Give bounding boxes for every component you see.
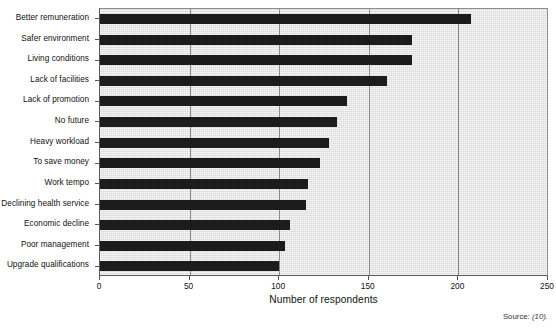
x-axis-tick-label: 100 (271, 281, 285, 291)
bar (100, 14, 471, 24)
category-tick (95, 163, 99, 164)
category-label: To save money (33, 152, 89, 173)
bar (100, 241, 285, 251)
category-tick (95, 39, 99, 40)
bar-row (100, 91, 547, 112)
bar-row (100, 174, 547, 195)
category-tick (95, 18, 99, 19)
bar (100, 138, 329, 148)
x-axis-tick-label: 0 (97, 281, 102, 291)
bar-row (100, 153, 547, 174)
bar-row (100, 9, 547, 30)
source-reference: (10). (532, 312, 548, 321)
plot-area (99, 8, 548, 276)
category-tick (95, 266, 99, 267)
bar (100, 220, 290, 230)
category-label: Safer environment (21, 29, 89, 50)
x-axis-tick-label: 50 (184, 281, 193, 291)
bar (100, 261, 279, 271)
category-tick (95, 142, 99, 143)
bar (100, 96, 347, 106)
x-axis-title: Number of respondents (99, 294, 548, 305)
x-axis-tick-label: 200 (450, 281, 464, 291)
bar (100, 117, 337, 127)
category-tick (95, 245, 99, 246)
category-label: No future (55, 111, 89, 132)
category-label: Better remuneration (16, 8, 89, 29)
bar (100, 179, 308, 189)
x-axis-tick (99, 276, 100, 280)
bar-row (100, 256, 547, 276)
x-axis-tick (189, 276, 190, 280)
category-tick (95, 224, 99, 225)
category-label: Poor management (21, 235, 89, 256)
category-label: Upgrade qualifications (7, 255, 89, 276)
category-tick (95, 183, 99, 184)
category-tick (95, 80, 99, 81)
category-tick (95, 101, 99, 102)
x-axis-tick-label: 150 (361, 281, 375, 291)
source-note: Source: (10). (503, 312, 548, 321)
bar-chart-figure: Better remunerationSafer environmentLivi… (0, 0, 556, 331)
bar-row (100, 133, 547, 154)
category-axis-labels: Better remunerationSafer environmentLivi… (0, 8, 95, 276)
category-label: Declining health service (1, 194, 89, 215)
bar (100, 35, 412, 45)
bar-row (100, 30, 547, 51)
category-label: Heavy workload (30, 132, 89, 153)
bar (100, 200, 306, 210)
bar (100, 158, 320, 168)
category-label: Lack of promotion (23, 90, 89, 111)
source-label: Source: (503, 312, 530, 321)
bar (100, 76, 387, 86)
category-tick (95, 204, 99, 205)
x-axis-tick-label: 250 (540, 281, 554, 291)
category-tick (95, 121, 99, 122)
bar-row (100, 112, 547, 133)
bar-row (100, 50, 547, 71)
bar-row (100, 71, 547, 92)
x-axis-tick (278, 276, 279, 280)
category-label: Lack of facilities (30, 70, 89, 91)
x-axis-tick (457, 276, 458, 280)
category-tick (95, 60, 99, 61)
x-axis-tick (368, 276, 369, 280)
bar (100, 55, 412, 65)
category-label: Economic decline (24, 214, 89, 235)
x-axis-tick (547, 276, 548, 280)
bar-row (100, 195, 547, 216)
bar-row (100, 215, 547, 236)
category-label: Living conditions (28, 49, 89, 70)
bar-row (100, 236, 547, 257)
category-label: Work tempo (45, 173, 89, 194)
